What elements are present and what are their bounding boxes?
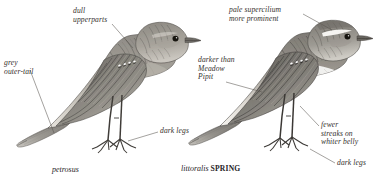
bird-left-head [136, 22, 201, 63]
bird-left-eye [173, 36, 179, 42]
caption-left-scientific-name: petrosus [52, 165, 79, 174]
caption-left-bird: petrosus [52, 165, 79, 174]
bird-right-feet [264, 137, 308, 151]
bird-left-bill [185, 38, 201, 43]
label-dull-upperparts: dull upperparts [73, 7, 107, 24]
leader-dark-legs-right [310, 149, 335, 163]
label-dark-legs-left: dark legs [160, 127, 189, 136]
caption-right-age: SPRING [211, 164, 241, 173]
label-fewer-streaks-whiter-belly: fewer streaks on whiter belly [321, 121, 358, 147]
label-grey-outer-tail: grey outer-tail [4, 59, 34, 76]
illustration-plate: dull upperparts grey outer-tail dark leg… [0, 0, 381, 184]
bird-right-eye [345, 34, 351, 40]
bird-right-head [308, 20, 373, 61]
leader-dark-legs-left [128, 132, 158, 141]
caption-right-bird: littoralis SPRING [181, 164, 240, 173]
leader-fewer-streaks [300, 106, 319, 126]
bird-left-feet [92, 139, 136, 153]
label-dark-legs-right: dark legs [337, 159, 366, 168]
label-pale-supercilium: pale supercilium more prominent [229, 6, 281, 23]
plate-artwork [0, 0, 381, 184]
caption-right-scientific-name: littoralis [181, 164, 209, 173]
label-darker-than-meadow-pipit: darker than Meadow Pipit [198, 56, 235, 82]
bird-right-bill [357, 36, 373, 41]
leader-grey-outer-tail [30, 70, 54, 133]
